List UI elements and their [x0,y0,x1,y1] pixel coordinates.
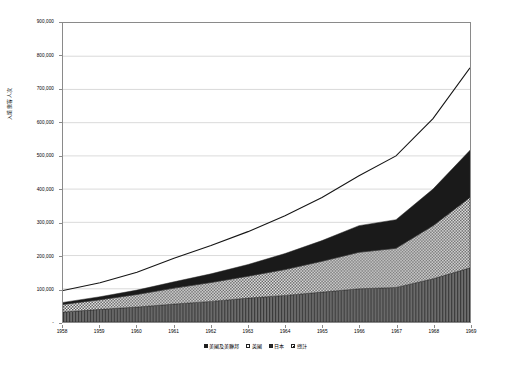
legend-swatch-icon [291,344,295,348]
y-tick-label: 800,000 [0,53,54,58]
y-tick-label: 400,000 [0,187,54,192]
x-tick-label: 1967 [391,329,402,335]
plot-area [62,22,471,323]
legend-item[interactable]: 日本 [269,343,285,349]
legend-item[interactable]: 英國 [246,343,262,349]
legend-label: 總計 [297,343,307,349]
x-tick-label: 1963 [243,329,254,335]
x-tick-mark [62,325,63,328]
y-tick-label: 600,000 [0,120,54,125]
y-tick-label: 100,000 [0,287,54,292]
x-tick-label: 1961 [168,329,179,335]
legend-item[interactable]: 美國及美聯邦 [204,343,240,349]
x-tick-mark [471,325,472,328]
x-tick-mark [285,325,286,328]
x-tick-label: 1968 [428,329,439,335]
legend-swatch-icon [204,344,208,348]
x-tick-label: 1964 [280,329,291,335]
x-tick-label: 1969 [466,329,477,335]
x-tick-label: 1965 [317,329,328,335]
chart-container: 入境旅客人次 -100,000200,000300,000400,000500,… [0,0,510,370]
y-tick-label: 300,000 [0,220,54,225]
x-tick-mark [136,325,137,328]
y-tick-label: 700,000 [0,86,54,91]
x-tick-label: 1962 [205,329,216,335]
legend-swatch-icon [269,344,273,348]
x-tick-mark [174,325,175,328]
legend-item[interactable]: 總計 [291,343,307,349]
y-tick-label: 500,000 [0,153,54,158]
y-tick-label: 200,000 [0,254,54,259]
x-tick-mark [211,325,212,328]
x-tick-mark [322,325,323,328]
x-tick-label: 1959 [94,329,105,335]
x-axis-ticks: 1958195919601961196219631964196519661967… [62,325,471,339]
series-layer [63,23,470,322]
x-tick-mark [397,325,398,328]
x-tick-mark [248,325,249,328]
legend-label: 美國及美聯邦 [209,343,239,349]
y-tick-label: - [0,320,54,325]
x-tick-mark [99,325,100,328]
legend-label: 英國 [252,343,262,349]
y-tick-mark [59,323,62,324]
chart-legend: 美國及美聯邦 英國 日本 總計 [0,340,510,352]
legend-label: 日本 [274,343,284,349]
x-tick-label: 1960 [131,329,142,335]
x-tick-label: 1958 [57,329,68,335]
y-tick-label: 900,000 [0,19,54,24]
legend-swatch-icon [246,344,250,348]
x-tick-mark [434,325,435,328]
x-tick-mark [359,325,360,328]
x-tick-label: 1966 [354,329,365,335]
y-axis-ticks: -100,000200,000300,000400,000500,000600,… [0,14,58,332]
